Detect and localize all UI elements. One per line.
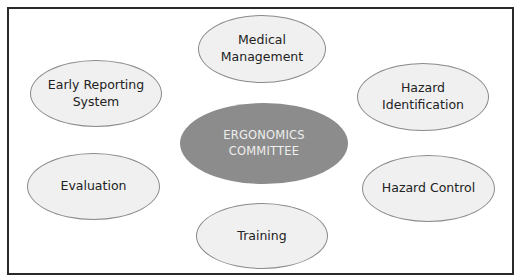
node-label: Hazard Identification <box>358 80 488 114</box>
center-label: ERGONOMICS COMMITTEE <box>223 128 305 159</box>
node-hazard-identification: Hazard Identification <box>357 63 489 131</box>
node-label: Medical Management <box>199 32 325 66</box>
node-evaluation: Evaluation <box>27 153 160 220</box>
node-ergonomics-committee: ERGONOMICS COMMITTEE <box>180 103 348 184</box>
node-label: Early Reporting System <box>48 77 144 111</box>
node-hazard-control: Hazard Control <box>362 155 495 222</box>
node-training: Training <box>196 203 328 269</box>
node-medical-management: Medical Management <box>198 15 326 83</box>
node-label: Training <box>237 228 286 245</box>
node-label: Hazard Control <box>382 180 475 197</box>
node-label: Evaluation <box>61 178 127 195</box>
node-early-reporting-system: Early Reporting System <box>30 60 162 127</box>
